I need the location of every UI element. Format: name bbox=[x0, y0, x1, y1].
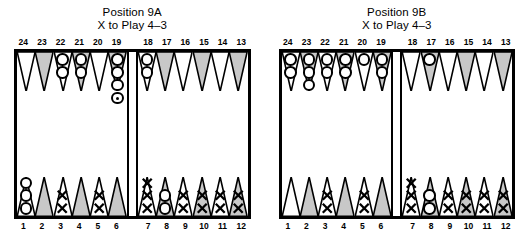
point-17[interactable] bbox=[421, 52, 439, 134]
point-10[interactable] bbox=[318, 134, 336, 216]
point-6[interactable] bbox=[402, 134, 420, 216]
point-6[interactable] bbox=[138, 134, 156, 216]
checker-x[interactable] bbox=[141, 177, 154, 190]
board-playfield[interactable] bbox=[14, 49, 251, 219]
checker-o[interactable] bbox=[303, 53, 316, 66]
checker-o[interactable] bbox=[321, 66, 334, 79]
checker-x[interactable] bbox=[358, 202, 371, 215]
point-11[interactable] bbox=[300, 134, 318, 216]
checker-o[interactable] bbox=[111, 66, 124, 79]
checker-x[interactable] bbox=[460, 189, 473, 202]
point-24[interactable] bbox=[17, 52, 35, 134]
checker-o[interactable] bbox=[56, 66, 69, 79]
point-5[interactable] bbox=[156, 134, 174, 216]
point-18[interactable] bbox=[138, 52, 156, 134]
point-15[interactable] bbox=[457, 52, 475, 134]
checker-x[interactable] bbox=[321, 189, 334, 202]
checker-x[interactable] bbox=[405, 177, 418, 190]
point-7[interactable] bbox=[373, 134, 391, 216]
checker-x[interactable] bbox=[460, 202, 473, 215]
checker-x[interactable] bbox=[478, 202, 491, 215]
checker-x[interactable] bbox=[56, 202, 69, 215]
checker-x[interactable] bbox=[358, 189, 371, 202]
checker-o[interactable] bbox=[159, 189, 172, 202]
checker-o[interactable] bbox=[423, 202, 436, 215]
point-19[interactable] bbox=[373, 52, 391, 134]
point-16[interactable] bbox=[439, 52, 457, 134]
checker-x[interactable] bbox=[232, 202, 245, 215]
point-16[interactable] bbox=[174, 52, 192, 134]
point-9[interactable] bbox=[72, 134, 90, 216]
checker-o[interactable] bbox=[141, 66, 154, 79]
point-4[interactable] bbox=[174, 134, 192, 216]
checker-o[interactable] bbox=[423, 53, 436, 66]
point-20[interactable] bbox=[355, 52, 373, 134]
point-8[interactable] bbox=[355, 134, 373, 216]
checker-x[interactable] bbox=[497, 202, 510, 215]
checker-o[interactable] bbox=[303, 66, 316, 79]
checker-o[interactable] bbox=[303, 79, 316, 92]
point-23[interactable] bbox=[35, 52, 53, 134]
checker-x[interactable] bbox=[442, 189, 455, 202]
point-8[interactable] bbox=[90, 134, 108, 216]
point-22[interactable] bbox=[318, 52, 336, 134]
checker-x[interactable] bbox=[214, 202, 227, 215]
point-21[interactable] bbox=[72, 52, 90, 134]
checker-o-marked[interactable] bbox=[111, 92, 124, 105]
checker-x[interactable] bbox=[196, 202, 209, 215]
point-13[interactable] bbox=[229, 52, 247, 134]
checker-x[interactable] bbox=[93, 189, 106, 202]
checker-x[interactable] bbox=[196, 189, 209, 202]
checker-x[interactable] bbox=[497, 189, 510, 202]
point-12[interactable] bbox=[282, 134, 300, 216]
checker-x[interactable] bbox=[141, 189, 154, 202]
checker-o[interactable] bbox=[376, 66, 389, 79]
checker-o[interactable] bbox=[321, 53, 334, 66]
checker-o[interactable] bbox=[20, 202, 33, 215]
point-3[interactable] bbox=[457, 134, 475, 216]
point-12[interactable] bbox=[17, 134, 35, 216]
checker-x[interactable] bbox=[442, 202, 455, 215]
point-11[interactable] bbox=[35, 134, 53, 216]
checker-o[interactable] bbox=[141, 53, 154, 66]
checker-o[interactable] bbox=[284, 66, 297, 79]
point-19[interactable] bbox=[108, 52, 126, 134]
point-2[interactable] bbox=[211, 134, 229, 216]
checker-o[interactable] bbox=[20, 189, 33, 202]
checker-o[interactable] bbox=[159, 202, 172, 215]
point-7[interactable] bbox=[108, 134, 126, 216]
point-9[interactable] bbox=[336, 134, 354, 216]
point-21[interactable] bbox=[336, 52, 354, 134]
checker-o[interactable] bbox=[284, 53, 297, 66]
checker-o[interactable] bbox=[75, 53, 88, 66]
checker-x[interactable] bbox=[93, 202, 106, 215]
point-22[interactable] bbox=[54, 52, 72, 134]
point-18[interactable] bbox=[402, 52, 420, 134]
checker-o[interactable] bbox=[111, 53, 124, 66]
checker-x[interactable] bbox=[405, 202, 418, 215]
checker-x[interactable] bbox=[232, 189, 245, 202]
point-3[interactable] bbox=[193, 134, 211, 216]
point-13[interactable] bbox=[494, 52, 512, 134]
checker-o[interactable] bbox=[358, 53, 371, 66]
checker-o[interactable] bbox=[339, 53, 352, 66]
point-23[interactable] bbox=[300, 52, 318, 134]
checker-x[interactable] bbox=[478, 189, 491, 202]
checker-o[interactable] bbox=[339, 66, 352, 79]
point-2[interactable] bbox=[475, 134, 493, 216]
point-14[interactable] bbox=[211, 52, 229, 134]
point-4[interactable] bbox=[439, 134, 457, 216]
point-1[interactable] bbox=[494, 134, 512, 216]
point-24[interactable] bbox=[282, 52, 300, 134]
point-17[interactable] bbox=[156, 52, 174, 134]
board-bar[interactable] bbox=[127, 52, 138, 216]
checker-o[interactable] bbox=[423, 189, 436, 202]
point-10[interactable] bbox=[54, 134, 72, 216]
checker-x[interactable] bbox=[141, 202, 154, 215]
checker-x[interactable] bbox=[214, 189, 227, 202]
checker-o[interactable] bbox=[20, 177, 33, 190]
board-playfield[interactable] bbox=[279, 49, 516, 219]
checker-x[interactable] bbox=[177, 202, 190, 215]
point-14[interactable] bbox=[475, 52, 493, 134]
point-20[interactable] bbox=[90, 52, 108, 134]
